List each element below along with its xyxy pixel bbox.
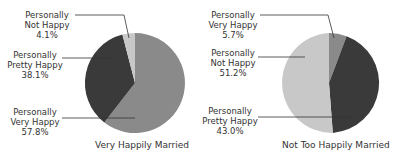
label-right-pretty-happy: Personally Pretty Happy 43.0% [201, 106, 259, 136]
pie-very-happily-married [62, 15, 185, 133]
pie-not-too-happily-married [258, 15, 379, 133]
label-left-pretty-happy: Personally Pretty Happy 38.1% [6, 50, 64, 80]
label-line: Personally [6, 50, 64, 60]
label-left-very-happy: Personally Very Happy 57.8% [6, 107, 64, 137]
label-pct: 51.2% [204, 68, 262, 78]
label-line: Pretty Happy [201, 116, 259, 126]
label-line: Personally [204, 10, 262, 20]
label-pct: 43.0% [201, 126, 259, 136]
caption-not-too-happily-married: Not Too Happily Married [282, 140, 390, 150]
caption-very-happily-married: Very Happily Married [95, 140, 189, 150]
label-pct: 38.1% [6, 70, 64, 80]
label-line: Personally [18, 10, 76, 20]
label-line: Very Happy [6, 117, 64, 127]
label-line: Personally [201, 106, 259, 116]
slice-not-happy [282, 33, 333, 133]
label-line: Very Happy [204, 20, 262, 30]
label-line: Pretty Happy [6, 60, 64, 70]
label-pct: 4.1% [18, 30, 76, 40]
label-line: Not Happy [18, 20, 76, 30]
label-pct: 57.8% [6, 127, 64, 137]
label-line: Personally [6, 107, 64, 117]
label-left-not-happy: Personally Not Happy 4.1% [18, 10, 76, 40]
label-right-very-happy: Personally Very Happy 5.7% [204, 10, 262, 40]
label-line: Personally [204, 48, 262, 58]
label-line: Not Happy [204, 58, 262, 68]
label-pct: 5.7% [204, 30, 262, 40]
label-right-not-happy: Personally Not Happy 51.2% [204, 48, 262, 78]
